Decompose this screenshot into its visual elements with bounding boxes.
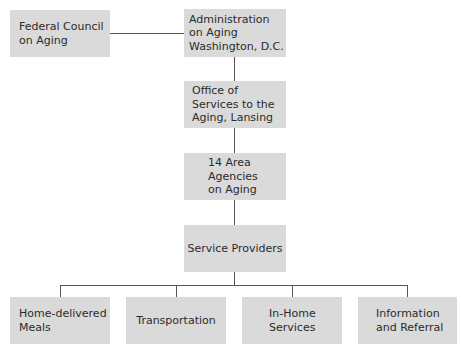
connector-drop-inhome [292,285,293,297]
node-administration: Administration on Aging Washington, D.C. [184,9,286,57]
connector-admin-office [234,57,235,81]
node-information-referral: Information and Referral [358,297,457,344]
node-label: Service Providers [187,242,282,256]
node-area-agencies: 14 Area Agencies on Aging [184,153,286,200]
node-label: Administration on Aging Washington, D.C. [189,13,284,54]
node-transportation: Transportation [126,297,226,344]
connector-agencies-providers [234,200,235,225]
node-label: Information and Referral [376,307,443,334]
connector-federal-admin [110,33,184,34]
node-label: Federal Council on Aging [19,20,104,47]
connector-services-bus [60,285,408,286]
node-label: In-Home Services [269,307,316,334]
node-office-services: Office of Services to the Aging, Lansing [184,81,286,128]
connector-providers-bus [234,272,235,285]
node-home-delivered-meals: Home-delivered Meals [10,297,110,344]
connector-drop-info [407,285,408,297]
node-label: Office of Services to the Aging, Lansing [192,84,274,125]
connector-office-agencies [234,128,235,153]
node-label: Home-delivered Meals [19,307,107,334]
node-service-providers: Service Providers [184,225,286,272]
node-label: 14 Area Agencies on Aging [208,156,258,197]
connector-drop-transportation [176,285,177,297]
connector-drop-meals [60,285,61,297]
node-label: Transportation [136,314,215,328]
node-federal-council: Federal Council on Aging [10,10,110,57]
node-in-home-services: In-Home Services [242,297,342,344]
